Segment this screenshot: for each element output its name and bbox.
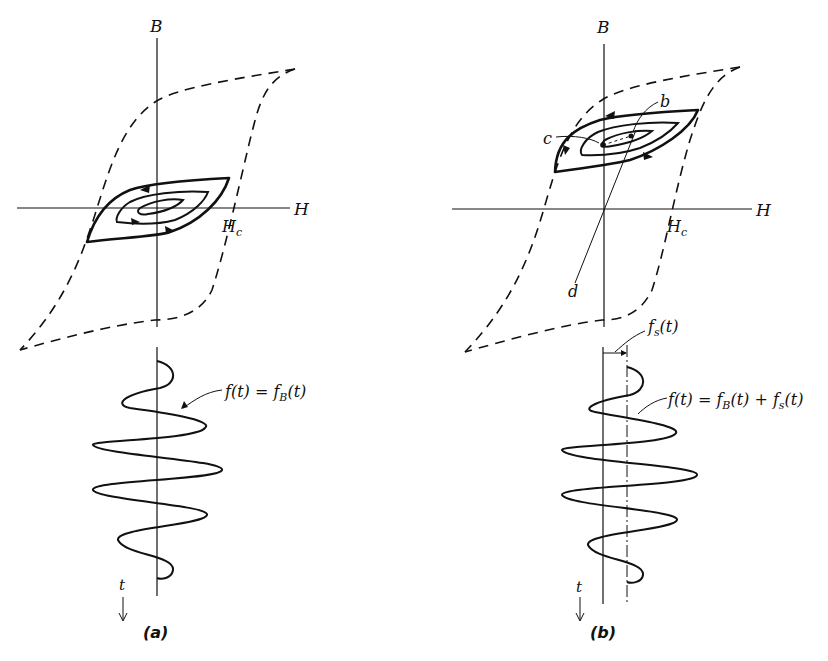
h-axis-label-a: H <box>293 199 310 219</box>
b-pointer <box>633 102 658 132</box>
b-axis-label-b: B <box>596 17 610 37</box>
label-pointer-b <box>638 398 667 414</box>
point-label-b: b <box>660 92 670 111</box>
offset-label-b: fs(t) <box>647 317 679 339</box>
panel-a: B H Hc f(t) = fB(t) t ** (a) <box>17 16 310 642</box>
label-pointer-a <box>183 390 222 408</box>
minor-loop-inner-a <box>138 199 183 214</box>
panel-b: B H Hc d c b fs(t) f(t) = fB(t) + fs( <box>452 17 803 642</box>
caption-b: (b) <box>590 623 616 642</box>
line-d <box>575 130 636 283</box>
arrowhead-icon <box>621 350 627 356</box>
c-pointer <box>556 136 599 143</box>
time-label-a: t <box>119 576 126 594</box>
point-label-c: c <box>543 129 552 148</box>
caption-a: (a) <box>143 623 168 642</box>
minor-loop-outer-b <box>555 110 698 172</box>
offset-pointer <box>615 331 645 352</box>
minor-loop-middle-b <box>581 122 678 155</box>
hysteresis-diagram: B H Hc f(t) = fB(t) t ** (a) B H Hc <box>0 0 828 661</box>
b-axis-label-a: B <box>149 16 163 36</box>
point-label-d: d <box>568 282 578 301</box>
arrow-down-icon <box>563 145 570 155</box>
waveform-label-a: f(t) = fB(t) <box>224 382 306 404</box>
minor-loop-inner-b <box>602 131 652 147</box>
waveform-label-b: f(t) = fB(t) + fs(t) <box>667 390 803 412</box>
h-axis-label-b: H <box>755 200 772 220</box>
minor-loop-outer-a <box>87 178 229 242</box>
time-label-b: t <box>576 578 583 596</box>
